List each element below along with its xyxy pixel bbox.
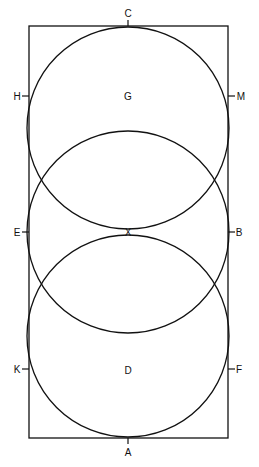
bottom-circle — [27, 235, 229, 437]
top-circle — [27, 27, 229, 229]
label-a: A — [125, 447, 132, 458]
label-e: E — [14, 227, 21, 238]
label-c: C — [124, 8, 131, 19]
label-g: G — [124, 91, 132, 102]
label-x: X — [125, 227, 132, 238]
label-d: D — [124, 365, 131, 376]
label-m: M — [237, 91, 245, 102]
label-b: B — [236, 227, 243, 238]
label-k: K — [14, 364, 21, 375]
label-h: H — [13, 91, 20, 102]
label-f: F — [236, 364, 242, 375]
geometry-diagram: C H G M E X B K D F A — [0, 0, 259, 467]
